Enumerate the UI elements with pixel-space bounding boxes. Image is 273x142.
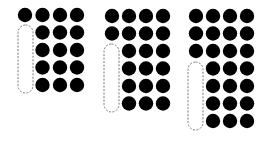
- dot: [240, 44, 254, 58]
- dot: [240, 114, 254, 128]
- dot: [240, 26, 254, 40]
- dot: [139, 26, 153, 40]
- dot: [70, 78, 84, 92]
- dot: [240, 96, 254, 110]
- dot: [206, 79, 220, 93]
- dot: [206, 96, 220, 110]
- dot: [53, 25, 67, 39]
- dot: [122, 26, 136, 40]
- dot: [139, 61, 153, 75]
- dot: [35, 60, 49, 74]
- dot: [139, 96, 153, 110]
- dot: [223, 44, 237, 58]
- group-3: [188, 9, 254, 130]
- group-2: [104, 9, 170, 112]
- dot: [156, 61, 170, 75]
- dot: [122, 61, 136, 75]
- dashed-outline: [18, 25, 33, 93]
- dot: [122, 79, 136, 93]
- dot: [206, 26, 220, 40]
- dot: [35, 25, 49, 39]
- dot: [53, 43, 67, 57]
- dot: [156, 79, 170, 93]
- dot: [139, 79, 153, 93]
- dot: [206, 9, 220, 23]
- dot: [35, 78, 49, 92]
- dot: [105, 9, 119, 23]
- group-1: [18, 8, 84, 93]
- dot: [105, 26, 119, 40]
- dot: [223, 61, 237, 75]
- dot: [53, 8, 67, 22]
- dot: [189, 9, 203, 23]
- dot: [18, 8, 32, 22]
- dot: [223, 79, 237, 93]
- dot: [70, 60, 84, 74]
- dot: [53, 60, 67, 74]
- dot: [223, 26, 237, 40]
- dot: [223, 114, 237, 128]
- dot: [223, 9, 237, 23]
- dot: [156, 26, 170, 40]
- dot: [70, 8, 84, 22]
- dot: [53, 78, 67, 92]
- dot: [35, 8, 49, 22]
- dot: [122, 44, 136, 58]
- dot: [122, 9, 136, 23]
- dot: [240, 79, 254, 93]
- dot: [156, 96, 170, 110]
- dot: [206, 44, 220, 58]
- dot: [70, 43, 84, 57]
- dot: [206, 61, 220, 75]
- dot: [156, 9, 170, 23]
- dot: [240, 9, 254, 23]
- dot: [139, 9, 153, 23]
- dot: [189, 26, 203, 40]
- dot: [35, 43, 49, 57]
- dot: [206, 114, 220, 128]
- dot: [223, 96, 237, 110]
- dot: [139, 44, 153, 58]
- dashed-outline: [188, 62, 203, 130]
- dot: [70, 25, 84, 39]
- dot: [189, 44, 203, 58]
- dashed-outline: [104, 44, 119, 112]
- dot: [122, 96, 136, 110]
- dot-array-diagram: [0, 0, 273, 142]
- dot: [240, 61, 254, 75]
- dot: [156, 44, 170, 58]
